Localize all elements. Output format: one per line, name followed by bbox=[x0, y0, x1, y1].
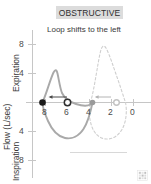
x-tick-label-4: 4 bbox=[86, 107, 91, 117]
normal-loop-curve bbox=[89, 46, 126, 139]
source-watermark-icon bbox=[137, 170, 148, 181]
obstructive-tlc-marker bbox=[39, 99, 46, 106]
x-tick-label-8: 8 bbox=[42, 107, 47, 117]
y-tick-label-8-upper: 8 bbox=[19, 39, 24, 49]
x-tick-label-2: 2 bbox=[108, 107, 113, 117]
y-tick-label-4-lower: 4 bbox=[19, 126, 24, 136]
normal-tlc-marker bbox=[64, 99, 70, 105]
obstructive-rv-marker bbox=[90, 100, 96, 106]
x-tick-label-0: 0 bbox=[130, 107, 135, 117]
normal-rv-marker bbox=[114, 100, 120, 106]
y-tick-label-8-lower: 8 bbox=[19, 155, 24, 165]
y-tick-label-4-upper: 4 bbox=[19, 68, 24, 78]
rv-shift-arrow bbox=[95, 95, 111, 98]
x-tick-label-6: 6 bbox=[64, 107, 69, 117]
flow-volume-loop-figure: OBSTRUCTIVE Loop shifts to the left Expi… bbox=[0, 0, 151, 184]
